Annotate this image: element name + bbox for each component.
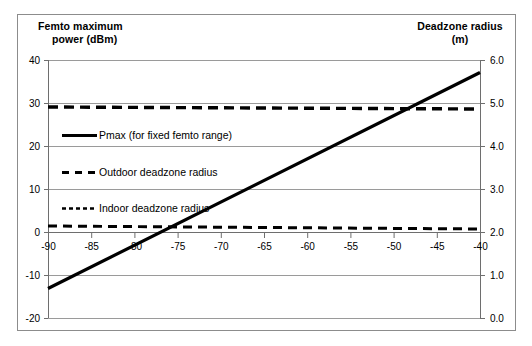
y-right-tick-2: 4.0 <box>490 141 520 152</box>
y-right-tick-4: 2.0 <box>490 227 520 238</box>
y-left-tick-2: 20 <box>14 141 40 152</box>
y-left-tick-0: 40 <box>14 55 40 66</box>
legend-label-indoor-deadzone-radius: Indoor deadzone radius <box>99 202 209 214</box>
legend-label-pmax: Pmax (for fixed femto range) <box>99 129 232 141</box>
y-left-tick-4: 0 <box>14 227 40 238</box>
series-line-outdoor-deadzone-radius <box>48 107 480 109</box>
y-right-tick-5: 1.0 <box>490 270 520 281</box>
x-tick-5: -65 <box>250 241 280 252</box>
legend-label-outdoor-deadzone-radius: Outdoor deadzone radius <box>99 166 218 178</box>
x-tick-1: -85 <box>77 241 107 252</box>
gridlines-horizontal <box>48 61 480 319</box>
y-axis-right-title-line1: Deadzone radius <box>417 20 503 32</box>
x-tick-8: -50 <box>379 241 409 252</box>
y-right-tick-3: 3.0 <box>490 184 520 195</box>
y-axis-left-title: Femto maximumpower (dBm) <box>38 20 123 46</box>
y-axis-left-title-line1: Femto maximum <box>38 20 123 32</box>
x-tick-10: -40 <box>466 241 496 252</box>
x-tick-7: -55 <box>336 241 366 252</box>
y-right-tick-6: 0.0 <box>490 313 520 324</box>
y-right-tick-1: 5.0 <box>490 98 520 109</box>
y-axis-left <box>44 60 49 319</box>
x-tick-4: -70 <box>206 241 236 252</box>
x-tick-6: -60 <box>293 241 323 252</box>
x-tick-3: -75 <box>163 241 193 252</box>
chart-plot-area <box>0 0 532 346</box>
y-axis-right <box>480 60 485 319</box>
series-line-indoor-deadzone-radius <box>48 226 480 229</box>
y-axis-right-title-line2: (m) <box>452 33 469 45</box>
y-axis-left-title-line2: power (dBm) <box>52 33 117 46</box>
y-left-tick-6: -20 <box>14 313 40 324</box>
y-left-tick-5: -10 <box>14 270 40 281</box>
y-left-tick-3: 10 <box>14 184 40 195</box>
chart-figure: Femto maximumpower (dBm) Deadzone radius… <box>0 0 532 346</box>
y-axis-right-title: Deadzone radius(m) <box>404 20 516 46</box>
x-axis <box>48 232 481 238</box>
x-tick-9: -45 <box>422 241 452 252</box>
x-tick-2: -80 <box>120 241 150 252</box>
y-left-tick-1: 30 <box>14 98 40 109</box>
x-tick-0: -90 <box>34 241 64 252</box>
series-line-pmax <box>48 73 480 289</box>
y-right-tick-0: 6.0 <box>490 55 520 66</box>
